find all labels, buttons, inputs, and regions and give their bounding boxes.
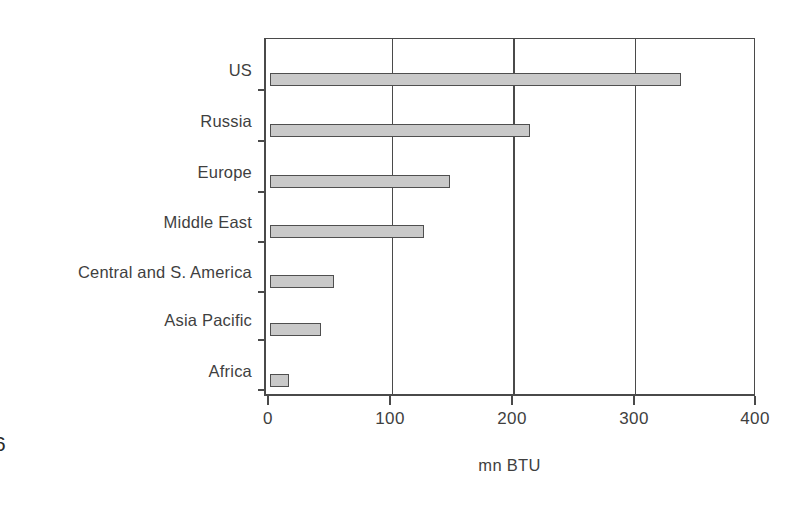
x-axis-tick-label-300: 300	[604, 408, 664, 430]
bar-us[interactable]	[270, 73, 681, 86]
y-axis-tick	[258, 241, 266, 243]
x-axis-tick-label-400: 400	[725, 408, 785, 430]
y-axis-tick	[258, 389, 266, 391]
category-label-us: US	[229, 61, 252, 79]
x-axis-tick-label-0: 0	[238, 408, 298, 430]
bar-asia-pacific[interactable]	[270, 323, 321, 336]
category-label-africa: Africa	[209, 362, 252, 380]
x-axis-tick	[511, 396, 513, 405]
y-axis-tick	[258, 339, 266, 341]
category-label-asia-pacific: Asia Pacific	[164, 311, 252, 329]
category-label-middle-east: Middle East	[164, 213, 252, 231]
y-axis-tick	[258, 140, 266, 142]
y-axis-tick	[258, 89, 266, 91]
bar-chart-figure: 6 U	[0, 0, 798, 511]
y-axis-tick	[258, 291, 266, 293]
bar-russia[interactable]	[270, 124, 530, 137]
gridline-200	[513, 39, 515, 394]
gridline-100	[392, 39, 394, 394]
x-axis-tick-label-100: 100	[360, 408, 420, 430]
bar-central-and-s-america[interactable]	[270, 275, 334, 288]
bar-africa[interactable]	[270, 374, 289, 387]
y-axis-tick	[258, 191, 266, 193]
bar-europe[interactable]	[270, 175, 450, 188]
x-axis-title: mn BTU	[264, 455, 755, 475]
x-axis-tick-label-200: 200	[482, 408, 542, 430]
plot-area	[264, 38, 755, 396]
bar-middle-east[interactable]	[270, 225, 424, 238]
gridline-300	[635, 39, 637, 394]
x-axis-tick	[633, 396, 635, 405]
page-number-marker: 6	[0, 431, 6, 457]
x-axis-tick	[389, 396, 391, 405]
category-label-europe: Europe	[198, 163, 252, 181]
category-label-central-and-s-america: Central and S. America	[78, 263, 252, 281]
category-label-russia: Russia	[200, 112, 252, 130]
x-axis-tick	[267, 396, 269, 405]
x-axis-tick	[754, 396, 756, 405]
